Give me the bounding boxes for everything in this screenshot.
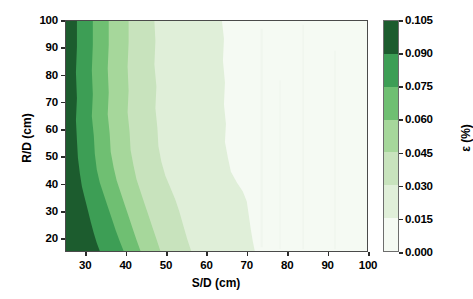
y-tick-label: 30 [46, 205, 58, 217]
y-tick [61, 156, 65, 158]
x-tick [247, 252, 249, 256]
y-tick-label: 100 [39, 14, 58, 26]
x-tick [368, 252, 370, 256]
x-tick-label: 90 [321, 259, 333, 271]
x-tick-label: 50 [160, 259, 172, 271]
y-tick [61, 129, 65, 131]
colorbar-tick-label: 0.000 [405, 246, 433, 258]
colorbar-tick-label: 0.030 [405, 180, 433, 192]
x-tick [328, 252, 330, 256]
x-tick-label: 100 [359, 259, 378, 271]
y-tick [61, 238, 65, 240]
colorbar-tick-label: 0.075 [405, 80, 433, 92]
y-tick-label: 90 [46, 41, 58, 53]
colorbar: 0.0000.0150.0300.0450.0600.0750.0900.105 [383, 20, 399, 252]
y-tick-label: 20 [46, 232, 58, 244]
colorbar-tick [399, 153, 403, 155]
x-axis-title: S/D (cm) [192, 276, 241, 290]
colorbar-tick [399, 119, 403, 121]
colorbar-tick-label: 0.105 [405, 14, 433, 26]
y-axis-title: R/D (cm) [20, 113, 34, 162]
colorbar-tick [399, 86, 403, 88]
y-tick-label: 50 [46, 150, 58, 162]
colorbar-tick [399, 53, 403, 55]
colorbar-gradient [383, 20, 399, 252]
colorbar-band [384, 185, 398, 218]
y-tick [61, 75, 65, 77]
colorbar-tick-label: 0.015 [405, 213, 433, 225]
colorbar-tick [399, 186, 403, 188]
colorbar-tick-label: 0.060 [405, 113, 433, 125]
x-tick [206, 252, 208, 256]
x-tick-label: 60 [200, 259, 212, 271]
colorbar-band [384, 21, 398, 54]
x-tick-label: 30 [79, 259, 91, 271]
y-tick-label: 70 [46, 96, 58, 108]
x-tick [166, 252, 168, 256]
colorbar-title: ε (%) [459, 124, 473, 152]
y-tick-label: 80 [46, 69, 58, 81]
colorbar-tick-label: 0.090 [405, 47, 433, 59]
y-tick [61, 184, 65, 186]
x-tick-label: 40 [119, 259, 131, 271]
colorbar-band [384, 54, 398, 87]
y-tick [61, 102, 65, 104]
y-tick [61, 47, 65, 49]
x-tick-label: 80 [281, 259, 293, 271]
contour-plot-figure: R/D (cm) S/D (cm) 0.0000.0150.0300.0450.… [0, 0, 473, 299]
y-tick-label: 40 [46, 178, 58, 190]
colorbar-band [384, 152, 398, 185]
colorbar-tick [399, 20, 403, 22]
colorbar-band [384, 87, 398, 120]
colorbar-tick-label: 0.045 [405, 147, 433, 159]
x-tick [85, 252, 87, 256]
colorbar-tick [399, 252, 403, 254]
colorbar-band [384, 120, 398, 153]
y-tick [61, 20, 65, 22]
plot-area [65, 20, 368, 252]
x-tick-label: 70 [241, 259, 253, 271]
contour-bands [66, 21, 367, 251]
colorbar-band [384, 218, 398, 251]
x-tick [126, 252, 128, 256]
x-tick [287, 252, 289, 256]
y-tick [61, 211, 65, 213]
colorbar-tick [399, 219, 403, 221]
y-tick-label: 60 [46, 123, 58, 135]
